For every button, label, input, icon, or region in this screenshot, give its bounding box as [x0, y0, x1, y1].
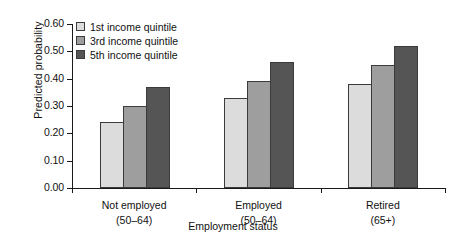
bar — [247, 81, 271, 188]
y-axis-tick-label: 0.50 — [44, 44, 64, 56]
y-axis-tick: 0.10 — [67, 161, 72, 162]
legend-item: 5th income quintile — [76, 48, 178, 61]
legend-swatch — [76, 50, 85, 59]
x-axis-tick — [72, 188, 73, 193]
bar — [348, 84, 372, 188]
legend-label: 5th income quintile — [90, 49, 178, 61]
group-label-main: Employed — [235, 199, 282, 211]
group-label-main: Retired — [366, 199, 400, 211]
y-axis-tick-label: 0.30 — [44, 99, 64, 111]
y-axis-tick-label: 0.40 — [44, 72, 64, 84]
x-axis-tick — [445, 188, 446, 193]
legend-label: 1st income quintile — [90, 21, 177, 33]
bar — [394, 46, 418, 188]
y-axis-tick: 0.60 — [67, 24, 72, 25]
legend-label: 3rd income quintile — [90, 35, 178, 47]
bar — [270, 62, 294, 188]
y-axis-title: Predicted probability — [32, 0, 44, 160]
x-axis-tick — [196, 188, 197, 193]
group-label-main: Not employed — [102, 199, 167, 211]
y-axis-tick: 0.50 — [67, 51, 72, 52]
y-axis-tick-label: 0.10 — [44, 154, 64, 166]
bar — [100, 122, 124, 188]
bar — [224, 98, 248, 188]
y-axis-line — [72, 24, 73, 189]
bar — [146, 87, 170, 188]
y-axis-tick: 0.40 — [67, 79, 72, 80]
legend-item: 3rd income quintile — [76, 34, 178, 47]
y-axis-tick-label: 0.60 — [44, 17, 64, 29]
y-axis-tick: 0.20 — [67, 133, 72, 134]
bar — [371, 65, 395, 188]
bar-chart-figure: Predicted probability 0.600.500.400.300.… — [0, 0, 466, 247]
y-axis-tick-label: 0.00 — [44, 181, 64, 193]
legend-item: 1st income quintile — [76, 20, 178, 33]
y-axis-tick-label: 0.20 — [44, 126, 64, 138]
x-axis-line — [72, 188, 446, 189]
x-axis-tick — [321, 188, 322, 193]
legend-swatch — [76, 22, 85, 31]
y-axis-tick: 0.30 — [67, 106, 72, 107]
x-axis-title: Employment status — [0, 220, 466, 232]
bar — [123, 106, 147, 188]
legend: 1st income quintile3rd income quintile5t… — [76, 20, 178, 62]
legend-swatch — [76, 36, 85, 45]
